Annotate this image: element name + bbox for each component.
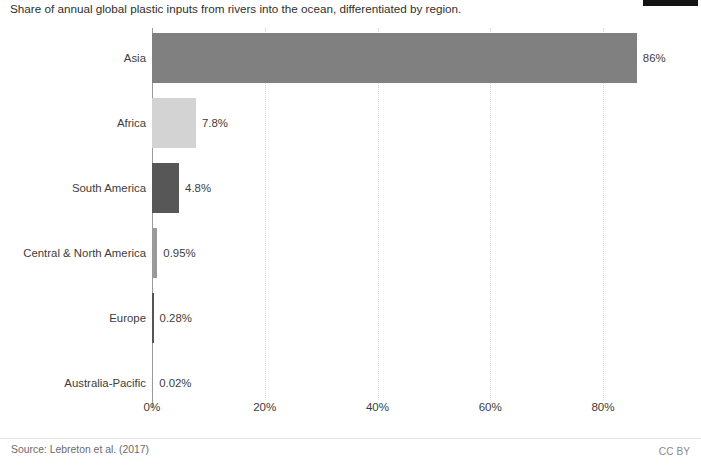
license-note: CC BY	[659, 446, 690, 457]
footer-divider	[0, 438, 701, 439]
category-label: South America	[72, 163, 146, 213]
bar[interactable]	[152, 163, 179, 213]
x-tick-label: 40%	[366, 400, 389, 413]
gridline-40	[378, 28, 379, 400]
x-tick-label: 0%	[144, 400, 161, 413]
category-label: Africa	[117, 98, 146, 148]
bar-value-label: 4.8%	[185, 163, 211, 213]
bar[interactable]	[152, 98, 196, 148]
gridline-80	[603, 28, 604, 400]
bar-row: Europe0.28%	[0, 293, 701, 343]
source-note: Source: Lebreton et al. (2017)	[11, 444, 149, 455]
bar-row: South America4.8%	[0, 163, 701, 213]
category-label: Asia	[124, 33, 146, 83]
gridline-60	[490, 28, 491, 400]
axis-baseline	[152, 28, 153, 400]
bar-value-label: 86%	[643, 33, 666, 83]
chart-title: Share of annual global plastic inputs fr…	[10, 1, 670, 16]
bar-value-label: 0.95%	[163, 228, 195, 278]
bar-row: Central & North America0.95%	[0, 228, 701, 278]
bar-row: Africa7.8%	[0, 98, 701, 148]
x-tick-label: 80%	[591, 400, 614, 413]
chart-plot-area: Asia86%Africa7.8%South America4.8%Centra…	[0, 28, 701, 410]
bar-value-label: 0.28%	[160, 293, 192, 343]
bar-value-label: 7.8%	[202, 98, 228, 148]
x-tick-label: 20%	[253, 400, 276, 413]
bar[interactable]	[152, 33, 637, 83]
bar[interactable]	[152, 293, 154, 343]
bar[interactable]	[152, 228, 157, 278]
x-axis: 0%20%40%60%80%	[0, 400, 701, 424]
x-tick-label: 60%	[479, 400, 502, 413]
category-label: Central & North America	[23, 228, 146, 278]
gridline-20	[265, 28, 266, 400]
category-label: Europe	[109, 293, 146, 343]
bar-row: Asia86%	[0, 33, 701, 83]
